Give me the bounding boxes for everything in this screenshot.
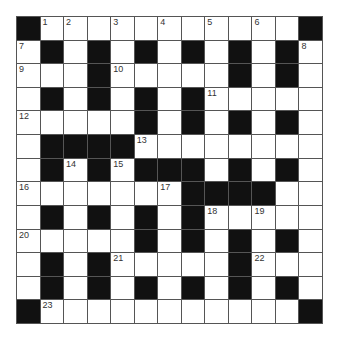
answer-cell[interactable] [64, 88, 87, 111]
answer-cell[interactable] [205, 64, 228, 87]
answer-cell[interactable] [88, 17, 111, 40]
answer-cell[interactable]: 7 [17, 41, 40, 64]
answer-cell[interactable]: 11 [205, 88, 228, 111]
answer-cell[interactable] [229, 206, 252, 229]
answer-cell[interactable] [17, 277, 40, 300]
answer-cell[interactable] [88, 111, 111, 134]
answer-cell[interactable] [64, 206, 87, 229]
answer-cell[interactable] [135, 253, 158, 276]
answer-cell[interactable] [205, 230, 228, 253]
answer-cell[interactable] [182, 253, 205, 276]
answer-cell[interactable] [135, 182, 158, 205]
answer-cell[interactable]: 17 [158, 182, 181, 205]
answer-cell[interactable]: 9 [17, 64, 40, 87]
answer-cell[interactable] [276, 253, 299, 276]
answer-cell[interactable] [17, 135, 40, 158]
answer-cell[interactable] [205, 277, 228, 300]
answer-cell[interactable] [64, 300, 87, 323]
answer-cell[interactable] [158, 41, 181, 64]
answer-cell[interactable] [111, 41, 134, 64]
answer-cell[interactable] [205, 253, 228, 276]
answer-cell[interactable] [135, 17, 158, 40]
answer-cell[interactable] [41, 182, 64, 205]
answer-cell[interactable] [182, 135, 205, 158]
answer-cell[interactable] [64, 64, 87, 87]
answer-cell[interactable] [64, 111, 87, 134]
answer-cell[interactable] [252, 111, 275, 134]
answer-cell[interactable] [64, 41, 87, 64]
answer-cell[interactable] [229, 17, 252, 40]
answer-cell[interactable] [64, 277, 87, 300]
answer-cell[interactable] [88, 182, 111, 205]
answer-cell[interactable] [229, 300, 252, 323]
answer-cell[interactable]: 22 [252, 253, 275, 276]
answer-cell[interactable]: 10 [111, 64, 134, 87]
answer-cell[interactable] [158, 111, 181, 134]
answer-cell[interactable] [111, 111, 134, 134]
answer-cell[interactable] [17, 206, 40, 229]
answer-cell[interactable] [299, 253, 322, 276]
answer-cell[interactable] [252, 88, 275, 111]
answer-cell[interactable]: 21 [111, 253, 134, 276]
answer-cell[interactable] [158, 300, 181, 323]
answer-cell[interactable] [299, 230, 322, 253]
answer-cell[interactable] [205, 300, 228, 323]
answer-cell[interactable] [158, 135, 181, 158]
answer-cell[interactable] [17, 88, 40, 111]
answer-cell[interactable]: 18 [205, 206, 228, 229]
answer-cell[interactable] [135, 300, 158, 323]
answer-cell[interactable] [158, 277, 181, 300]
answer-cell[interactable]: 23 [41, 300, 64, 323]
answer-cell[interactable] [299, 182, 322, 205]
answer-cell[interactable] [252, 64, 275, 87]
answer-cell[interactable] [299, 88, 322, 111]
answer-cell[interactable] [182, 64, 205, 87]
answer-cell[interactable] [88, 300, 111, 323]
answer-cell[interactable] [64, 182, 87, 205]
answer-cell[interactable] [299, 206, 322, 229]
answer-cell[interactable] [252, 135, 275, 158]
answer-cell[interactable] [276, 182, 299, 205]
answer-cell[interactable] [229, 88, 252, 111]
answer-cell[interactable] [111, 182, 134, 205]
answer-cell[interactable] [205, 135, 228, 158]
answer-cell[interactable] [111, 88, 134, 111]
answer-cell[interactable] [135, 64, 158, 87]
answer-cell[interactable]: 6 [252, 17, 275, 40]
answer-cell[interactable] [299, 111, 322, 134]
answer-cell[interactable] [276, 300, 299, 323]
answer-cell[interactable] [252, 41, 275, 64]
answer-cell[interactable] [182, 300, 205, 323]
answer-cell[interactable] [205, 41, 228, 64]
answer-cell[interactable] [41, 230, 64, 253]
answer-cell[interactable]: 14 [64, 159, 87, 182]
answer-cell[interactable] [276, 17, 299, 40]
answer-cell[interactable] [111, 277, 134, 300]
answer-cell[interactable] [88, 230, 111, 253]
answer-cell[interactable] [252, 300, 275, 323]
answer-cell[interactable]: 19 [252, 206, 275, 229]
answer-cell[interactable] [299, 159, 322, 182]
answer-cell[interactable] [158, 88, 181, 111]
answer-cell[interactable] [17, 159, 40, 182]
answer-cell[interactable] [111, 230, 134, 253]
answer-cell[interactable]: 1 [41, 17, 64, 40]
answer-cell[interactable]: 2 [64, 17, 87, 40]
answer-cell[interactable]: 8 [299, 41, 322, 64]
answer-cell[interactable]: 15 [111, 159, 134, 182]
answer-cell[interactable] [111, 206, 134, 229]
answer-cell[interactable] [64, 253, 87, 276]
answer-cell[interactable] [252, 277, 275, 300]
answer-cell[interactable]: 5 [205, 17, 228, 40]
answer-cell[interactable] [205, 111, 228, 134]
answer-cell[interactable]: 16 [17, 182, 40, 205]
answer-cell[interactable] [299, 64, 322, 87]
answer-cell[interactable] [182, 17, 205, 40]
answer-cell[interactable] [252, 230, 275, 253]
answer-cell[interactable] [111, 300, 134, 323]
answer-cell[interactable] [17, 253, 40, 276]
answer-cell[interactable] [299, 277, 322, 300]
answer-cell[interactable]: 20 [17, 230, 40, 253]
answer-cell[interactable] [205, 159, 228, 182]
answer-cell[interactable] [158, 253, 181, 276]
